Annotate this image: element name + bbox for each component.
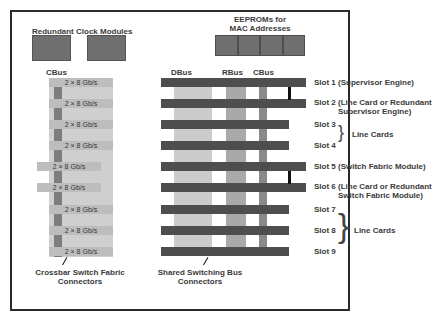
- slot-5-6-jumper: [288, 171, 291, 184]
- crossbar-connector-4: 2 × 8 Gb/s: [49, 141, 113, 150]
- brace-icon: }: [338, 208, 349, 242]
- slot-1-label: Slot 1 (Supervisor Engine): [314, 78, 414, 88]
- crossbar-connector-6: 2 × 8 Gb/s: [37, 183, 101, 192]
- shared-bus-caption-2: Connectors: [150, 277, 250, 287]
- eeprom-cell: [283, 35, 306, 56]
- clock-module-2: [87, 35, 126, 61]
- slot-6-label-cont: Switch Fabric Module): [338, 191, 423, 201]
- slot-5-connector: [161, 162, 306, 171]
- eeprom-block: [215, 35, 305, 56]
- crossbar-caption-2: Connectors: [20, 277, 140, 287]
- crossbar-connector-8: 2 × 8 Gb/s: [49, 226, 113, 235]
- slot-9-label: Slot 9: [314, 247, 336, 257]
- cbus-label: CBus: [253, 68, 274, 78]
- slot-5-label: Slot 5 (Switch Fabric Module): [314, 162, 426, 172]
- slot-4-label: Slot 4: [314, 141, 336, 151]
- crossbar-connector-5: 2 × 8 Gb/s: [37, 162, 101, 171]
- slot-7-label: Slot 7: [314, 205, 336, 215]
- slot-8-label: Slot 8: [314, 226, 336, 236]
- slot-7-connector: [161, 205, 289, 214]
- slot-9-connector: [161, 247, 289, 256]
- crossbar-connector-3: 2 × 8 Gb/s: [49, 120, 113, 129]
- slot-4-connector: [161, 141, 289, 150]
- eeprom-title-2: MAC Addresses: [215, 24, 305, 34]
- slot-8-connector: [161, 226, 289, 235]
- clock-module-1: [32, 35, 71, 61]
- line-cards-group-1: Line Cards: [352, 130, 393, 140]
- slot-2-label-cont: Supervisor Engine): [338, 107, 411, 117]
- left-cbus-label: CBus: [46, 68, 67, 78]
- slot-1-2-jumper: [288, 87, 291, 100]
- dbus-label: DBus: [171, 68, 192, 78]
- slot-6-connector: [161, 183, 306, 192]
- slot-3-label: Slot 3: [314, 120, 336, 130]
- crossbar-connector-9: 2 × 8 Gb/s: [49, 247, 113, 256]
- brace-icon: }: [338, 123, 344, 141]
- line-cards-group-2: Line Cards: [354, 226, 395, 236]
- slot-1-connector: [161, 78, 306, 87]
- crossbar-connector-7: 2 × 8 Gb/s: [49, 205, 113, 214]
- crossbar-connector-1: 2 × 8 Gb/s: [49, 78, 113, 87]
- eeprom-cell: [215, 35, 238, 56]
- eeprom-cell: [238, 35, 261, 56]
- slot-2-connector: [161, 99, 306, 108]
- rbus-label: RBus: [222, 68, 243, 78]
- eeprom-cell: [260, 35, 283, 56]
- crossbar-connector-2: 2 × 8 Gb/s: [49, 99, 113, 108]
- slot-3-connector: [161, 120, 289, 129]
